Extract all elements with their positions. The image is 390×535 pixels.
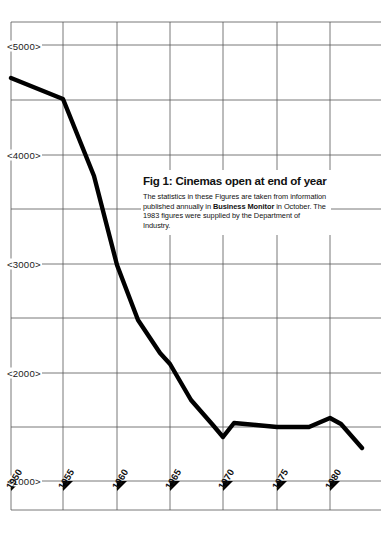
y-axis-label-5000: <5000> — [6, 41, 42, 52]
y-axis-label-4000: <4000> — [6, 150, 42, 161]
horizontal-gridlines — [11, 22, 381, 510]
figure-caption-text: The statistics in these Figures are take… — [143, 192, 327, 230]
figure-title: Fig 1: Cinemas open at end of year — [143, 174, 327, 187]
y-axis-label-2000: <2000> — [6, 368, 42, 379]
figure-cinemas-open-at-end-of-year: <5000> <4000> <3000> <2000> <1000> 1950 … — [0, 0, 390, 535]
line-chart-canvas — [0, 0, 390, 535]
y-axis-label-3000: <3000> — [6, 259, 42, 270]
data-line-cinemas — [11, 78, 362, 448]
figure-caption-block: Fig 1: Cinemas open at end of year The s… — [141, 170, 331, 235]
